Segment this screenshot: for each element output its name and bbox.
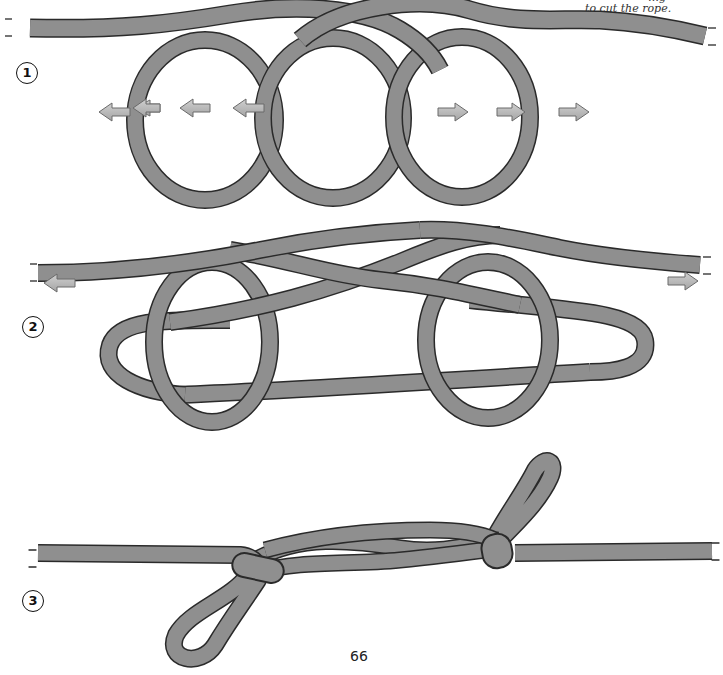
arrow-left-icon xyxy=(99,103,130,121)
arrow-right-icon xyxy=(438,103,468,121)
step1-standing-part xyxy=(30,3,705,70)
step3-upper-loop xyxy=(496,461,552,540)
step-1-rope xyxy=(5,3,716,200)
step-number-3: 3 xyxy=(22,590,44,612)
step-number-2: 2 xyxy=(22,316,44,338)
step3-lower-loop xyxy=(174,575,258,659)
step-1-arrows xyxy=(99,99,589,121)
arrow-right-icon xyxy=(668,272,698,290)
step1-ring-middle xyxy=(263,38,403,198)
step1-ring-right xyxy=(394,37,530,197)
step3-twisted-strands xyxy=(255,530,500,572)
step-3-rope xyxy=(29,461,719,658)
step-number-1: 1 xyxy=(16,62,38,84)
page-number: 66 xyxy=(350,648,368,664)
step-2-rope xyxy=(30,230,711,422)
arrow-left-icon xyxy=(180,99,210,117)
step1-ring-left xyxy=(135,40,275,200)
book-page: …g to cut the rope. xyxy=(0,0,723,675)
knot-diagram xyxy=(0,0,723,675)
arrow-right-icon xyxy=(559,103,589,121)
